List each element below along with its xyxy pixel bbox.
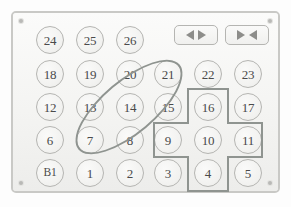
key-10[interactable]: 10 [194, 126, 222, 154]
numeric-keypad-panel: 24252618192021222312131415161767891011B1… [11, 11, 280, 193]
key-label: 18 [44, 68, 57, 81]
key-label: 24 [44, 34, 57, 47]
key-11[interactable]: 11 [234, 126, 262, 154]
key-label: 8 [127, 134, 133, 147]
key-22[interactable]: 22 [194, 60, 222, 88]
corner-screw-top-right [268, 19, 272, 23]
key-label: 25 [84, 34, 97, 47]
key-18[interactable]: 18 [36, 60, 64, 88]
key-label: 13 [84, 101, 97, 114]
corner-screw-bottom-left [19, 181, 23, 185]
key-label: 6 [47, 134, 53, 147]
key-label: 14 [124, 101, 137, 114]
arrows-inward-icon-right-triangle [249, 30, 257, 40]
key-15[interactable]: 15 [154, 93, 182, 121]
key-14[interactable]: 14 [116, 93, 144, 121]
corner-screw-bottom-right [268, 181, 272, 185]
key-16[interactable]: 16 [194, 93, 222, 121]
key-label: 10 [202, 134, 215, 147]
arrows-outward-icon-left-triangle [186, 30, 194, 40]
key-label: 11 [242, 134, 254, 147]
key-label: 16 [202, 101, 215, 114]
key-label: 7 [87, 134, 93, 147]
key-17[interactable]: 17 [234, 93, 262, 121]
key-25[interactable]: 25 [76, 26, 104, 54]
key-label: 20 [124, 68, 137, 81]
key-label: B1 [43, 167, 56, 179]
key-5[interactable]: 5 [234, 159, 262, 187]
key-7[interactable]: 7 [76, 126, 104, 154]
corner-screw-top-left [19, 19, 23, 23]
key-label: 26 [124, 34, 137, 47]
open-doors-button[interactable] [174, 25, 218, 45]
key-label: 2 [127, 167, 133, 180]
key-3[interactable]: 3 [154, 159, 182, 187]
key-8[interactable]: 8 [116, 126, 144, 154]
key-12[interactable]: 12 [36, 93, 64, 121]
key-label: 17 [242, 101, 255, 114]
key-label: 21 [162, 68, 175, 81]
arrows-inward-icon-left-triangle [237, 30, 245, 40]
key-label: 19 [84, 68, 97, 81]
key-21[interactable]: 21 [154, 60, 182, 88]
key-b1[interactable]: B1 [36, 159, 64, 187]
key-20[interactable]: 20 [116, 60, 144, 88]
key-1[interactable]: 1 [76, 159, 104, 187]
key-9[interactable]: 9 [154, 126, 182, 154]
key-label: 9 [165, 134, 171, 147]
key-4[interactable]: 4 [194, 159, 222, 187]
key-2[interactable]: 2 [116, 159, 144, 187]
key-label: 5 [245, 167, 251, 180]
key-24[interactable]: 24 [36, 26, 64, 54]
key-label: 1 [87, 167, 93, 180]
key-6[interactable]: 6 [36, 126, 64, 154]
key-label: 22 [202, 68, 215, 81]
key-26[interactable]: 26 [116, 26, 144, 54]
key-label: 12 [44, 101, 57, 114]
key-label: 15 [162, 101, 175, 114]
key-label: 4 [205, 167, 211, 180]
key-13[interactable]: 13 [76, 93, 104, 121]
arrows-outward-icon-right-triangle [198, 30, 206, 40]
close-doors-button[interactable] [225, 25, 269, 45]
key-label: 3 [165, 167, 171, 180]
key-label: 23 [242, 68, 255, 81]
keypad-screenshot: 24252618192021222312131415161767891011B1… [0, 0, 291, 207]
key-23[interactable]: 23 [234, 60, 262, 88]
key-19[interactable]: 19 [76, 60, 104, 88]
